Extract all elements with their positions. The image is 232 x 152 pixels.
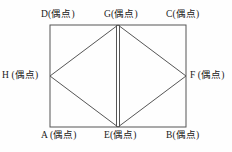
rectangle-abcd [50,25,186,127]
vertex-label-c: C(偶点) [166,10,199,20]
vertex-label-a: A (偶点) [41,131,77,141]
vertex-label-h: H (偶点) [2,71,38,81]
vertex-label-e: E(偶点) [104,131,137,141]
vertex-label-b: B(偶点) [166,131,199,141]
vertex-label-g: G(偶点) [104,10,138,20]
vertex-label-f: F (偶点) [190,71,225,81]
edge-g-f [118,25,186,76]
edge-e-h [50,76,118,127]
vertex-label-d: D(偶点) [41,10,75,20]
edge-h-g [50,25,118,76]
edge-f-e [118,76,186,127]
geometry-figure: D(偶点) G(偶点) C(偶点) H (偶点) F (偶点) A (偶点) E… [0,0,232,152]
